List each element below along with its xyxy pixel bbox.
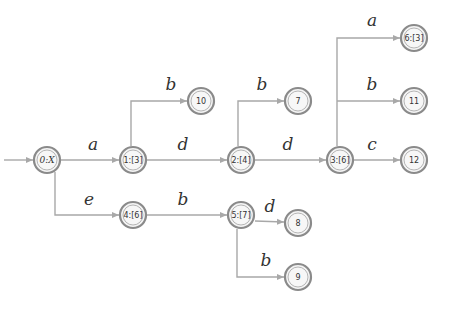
node-0[interactable]: 0:X	[34, 147, 60, 173]
node-2[interactable]: 2:[4]	[228, 147, 254, 173]
edge-label: a	[88, 134, 98, 154]
node-8[interactable]: 8	[285, 210, 311, 236]
edge-label: a	[367, 10, 377, 30]
node-10[interactable]: 10	[188, 88, 214, 114]
node-11[interactable]: 11	[401, 88, 427, 114]
edge-labels: a d d c b b a b e b d b	[84, 10, 377, 270]
edge-label: e	[84, 189, 94, 209]
node-6[interactable]: 6:[3]	[401, 25, 427, 51]
automaton-diagram: a d d c b b a b e b d b 0:X 1:[3] 2:[4] …	[0, 0, 451, 310]
edge-label: d	[283, 134, 294, 154]
node-12[interactable]: 12	[401, 147, 427, 173]
edge-label: c	[367, 134, 377, 154]
edge-label: b	[257, 74, 268, 94]
node-label: 8	[295, 219, 300, 228]
node-label: 4:[6]	[123, 211, 142, 220]
edge-label: b	[261, 250, 272, 270]
edge-label: b	[166, 74, 177, 94]
edge-label: d	[178, 134, 189, 154]
node-4[interactable]: 4:[6]	[120, 202, 146, 228]
node-label: 5:[7]	[231, 211, 250, 220]
node-label: 9	[295, 273, 300, 282]
edge-label: b	[367, 74, 378, 94]
node-label: 6:[3]	[404, 34, 423, 43]
node-9[interactable]: 9	[285, 264, 311, 290]
node-label: 10	[196, 97, 206, 106]
edge-2-7	[238, 101, 284, 146]
node-5[interactable]: 5:[7]	[228, 202, 254, 228]
node-label: 7	[295, 97, 300, 106]
edge-5-8	[255, 221, 284, 222]
node-7[interactable]: 7	[285, 88, 311, 114]
node-label: 3:[6]	[330, 156, 349, 165]
edge-label: b	[178, 189, 189, 209]
node-label: 2:[4]	[231, 156, 250, 165]
node-label: 11	[409, 97, 419, 106]
node-label: 0:X	[39, 155, 55, 165]
node-1[interactable]: 1:[3]	[120, 147, 146, 173]
node-label: 1:[3]	[123, 156, 142, 165]
node-label: 12	[409, 156, 419, 165]
edge-label: d	[265, 196, 276, 216]
node-3[interactable]: 3:[6]	[327, 147, 353, 173]
